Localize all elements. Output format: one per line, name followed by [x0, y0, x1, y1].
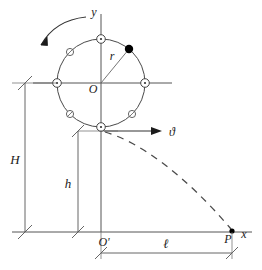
ground-origin-label: O'	[98, 235, 110, 249]
trajectory-dashed-curve	[105, 132, 231, 229]
dimension-h	[72, 125, 118, 238]
radius-label: r	[110, 49, 115, 63]
diagram-canvas: y x O O' r ϑ H h ℓ P	[0, 0, 262, 270]
slashed-marker-lower-right	[128, 110, 135, 117]
particle-marker-filled	[125, 45, 133, 53]
height-H-label: H	[9, 152, 20, 167]
radius-line	[101, 49, 129, 83]
y-axis-label: y	[90, 5, 97, 19]
height-h-label: h	[65, 176, 72, 191]
physics-diagram-figure: y x O O' r ϑ H h ℓ P	[0, 0, 262, 270]
velocity-label: ϑ	[169, 125, 176, 139]
rotation-direction-arrow	[41, 17, 86, 46]
ring-marker-top	[97, 35, 106, 44]
ring-marker-right	[141, 79, 150, 88]
landing-point-label: P	[223, 232, 232, 246]
slashed-marker-lower-left	[66, 110, 73, 117]
slashed-marker-upper-left	[66, 48, 73, 55]
circle-center-label: O	[89, 82, 98, 96]
x-axis-label: x	[240, 227, 247, 241]
distance-ell-label: ℓ	[163, 236, 169, 251]
ring-marker-bottom	[97, 123, 106, 132]
